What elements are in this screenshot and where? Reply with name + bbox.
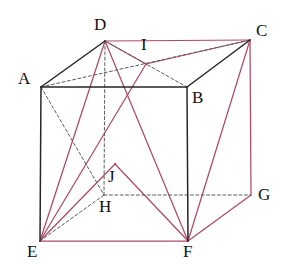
- vertex-label-c: C: [256, 22, 267, 39]
- vertex-label-h: H: [99, 198, 111, 215]
- vertex-label-i: I: [141, 36, 147, 53]
- vertex-dot-i: [145, 63, 147, 65]
- vertex-label-f: F: [183, 243, 192, 260]
- vertex-label-a: A: [18, 70, 30, 87]
- vertex-label-d: D: [94, 16, 106, 33]
- vertex-label-j: J: [108, 168, 115, 185]
- vertex-label-e: E: [27, 243, 37, 260]
- diagram-canvas: ABCDEFGHIJ: [0, 0, 291, 273]
- solid-edge-bf: [187, 87, 188, 241]
- vertex-label-b: B: [192, 89, 203, 106]
- solid-edge-ae: [40, 87, 41, 241]
- vertex-label-g: G: [258, 186, 270, 203]
- vertex-dot-j: [114, 163, 116, 165]
